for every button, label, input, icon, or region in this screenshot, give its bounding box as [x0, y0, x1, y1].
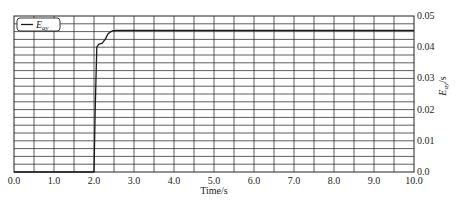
y-label-suffix: /s: [437, 76, 448, 83]
y-tick-label: 0.05: [417, 10, 435, 21]
y-tick-label: 0.03: [417, 72, 435, 83]
y-tick-label: 0.04: [417, 41, 435, 52]
y-tick-label: 0.02: [417, 104, 435, 115]
grid-lines: [14, 16, 414, 172]
chart: 0.01.02.03.04.05.06.07.08.09.010.0 0.00.…: [0, 0, 456, 201]
y-axis-tick-labels: 0.00.010.020.030.040.05: [417, 10, 435, 177]
y-tick-label: 0.0: [417, 166, 430, 177]
x-tick-label: 7.0: [288, 175, 301, 186]
x-tick-label: 9.0: [368, 175, 381, 186]
x-tick-label: 0.0: [8, 175, 21, 186]
x-axis-label: Time/s: [200, 185, 228, 196]
legend-label-sub: ay: [42, 24, 50, 32]
y-label-main: E: [437, 90, 448, 97]
y-axis-label: Eay/s: [437, 76, 450, 96]
x-tick-label: 2.0: [88, 175, 101, 186]
svg-text:Eay/s: Eay/s: [437, 76, 450, 96]
x-tick-label: 1.0: [48, 175, 61, 186]
x-tick-label: 6.0: [248, 175, 261, 186]
x-tick-label: 3.0: [128, 175, 141, 186]
x-tick-label: 8.0: [328, 175, 341, 186]
x-tick-label: 4.0: [168, 175, 181, 186]
legend-label-main: E: [35, 19, 42, 30]
legend: Eay: [17, 18, 60, 32]
y-tick-label: 0.01: [417, 135, 435, 146]
